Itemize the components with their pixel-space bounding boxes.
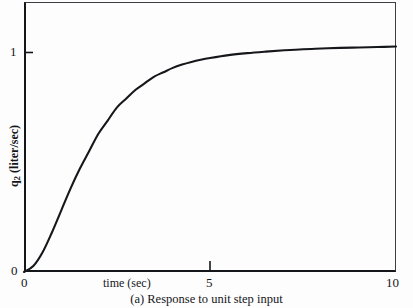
ytick-label-1: 1 [10,45,17,58]
x-axis-title: time (sec) [103,277,151,289]
xtick-label-0: 0 [21,276,28,289]
figure-container: 1 0 0 5 10 time (sec) q2 (liter/sec) (a)… [0,0,413,308]
y-axis-title: q2 (liter/sec) [8,96,24,216]
figure-caption: (a) Response to unit step input [0,292,413,306]
ytick-label-0: 0 [11,264,18,277]
xtick-label-5: 5 [206,276,213,289]
response-curve [24,47,396,272]
xtick-label-10: 10 [386,276,399,289]
plot-canvas [24,2,396,272]
y-axis-title-units: (liter/sec) [7,125,21,176]
y-axis-title-symbol: q [7,180,21,187]
y-axis-title-subscript: 2 [12,176,22,181]
